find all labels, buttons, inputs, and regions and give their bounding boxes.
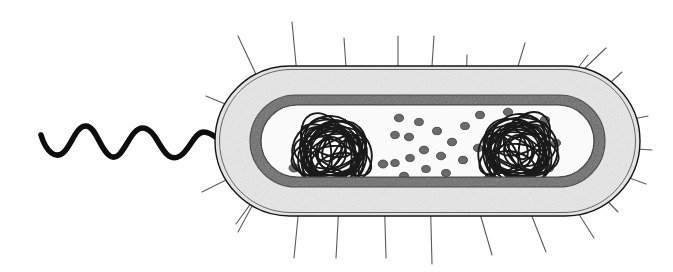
ribosome-icon — [394, 114, 403, 122]
ribosome-icon — [370, 236, 380, 244]
ribosome-icon — [507, 234, 516, 242]
ribosome-icon — [442, 169, 451, 176]
ribosome-icon — [406, 155, 415, 162]
ribosome-icon — [378, 160, 388, 168]
cell-diagram-canvas — [0, 0, 673, 272]
ribosome-icon — [404, 133, 413, 141]
ribosome-icon — [422, 166, 431, 173]
ribosome-icon — [436, 152, 445, 160]
ribosome-icon — [448, 138, 457, 145]
ribosome-icon — [391, 131, 400, 138]
ribosome-icon — [476, 111, 485, 118]
ribosome-icon — [419, 146, 428, 154]
prokaryotic-cell-figure — [0, 0, 673, 272]
ribosome-icon — [433, 127, 442, 134]
ribosome-icon — [391, 160, 399, 167]
ribosome-icon — [459, 156, 468, 163]
ribosome-icon — [415, 118, 424, 125]
ribosome-icon — [461, 122, 470, 129]
